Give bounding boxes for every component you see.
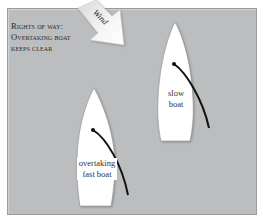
slow-boat-label-line-2: boat	[163, 99, 189, 110]
fast-boat-label-line-1: overtaking	[77, 158, 117, 169]
fast-boat-label-line-2: fast boat	[77, 169, 117, 180]
title-line-2: Overtaking boat	[11, 32, 71, 43]
slow-boat-hull	[158, 22, 194, 141]
fast-boat-mast	[91, 128, 95, 132]
slow-boat-label: slow boat	[163, 88, 189, 110]
slow-boat-label-line-1: slow	[163, 88, 189, 99]
fast-boat-label: overtaking fast boat	[77, 158, 117, 180]
title-line-3: keeps clear	[11, 43, 71, 54]
diagram-title: Rights of way: Overtaking boat keeps cle…	[11, 21, 71, 54]
slow-boat-mast	[172, 62, 176, 66]
title-line-1: Rights of way:	[11, 21, 71, 32]
